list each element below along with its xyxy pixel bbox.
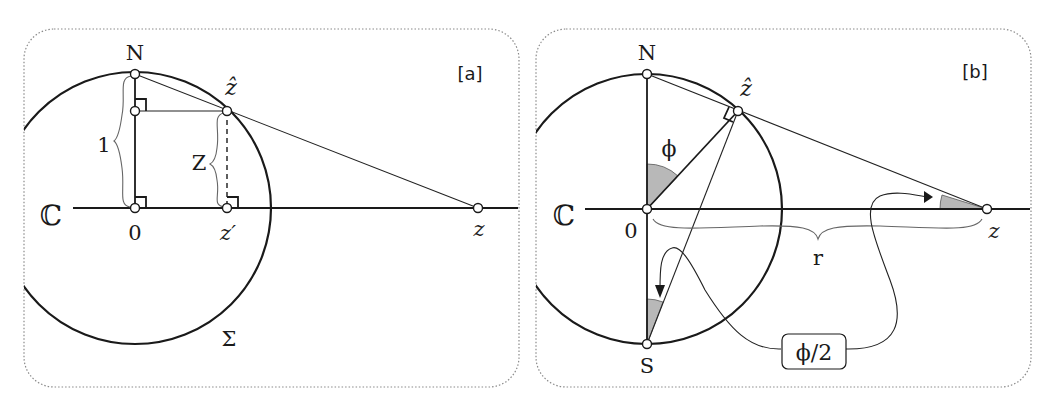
angle-phi-wedge <box>647 164 678 209</box>
point-z <box>474 204 483 213</box>
label-N: N <box>126 41 144 65</box>
point-z-hat-b <box>734 107 743 116</box>
label-complex-plane-b: ℂ <box>553 199 575 232</box>
point-N-b <box>643 70 652 79</box>
projection-line-b <box>647 74 987 209</box>
point-z-prime <box>223 204 232 213</box>
panel-b-tag: [b] <box>962 61 987 82</box>
brace-radius <box>653 219 982 239</box>
projection-line <box>135 74 478 208</box>
label-origin-b: 0 <box>624 219 637 243</box>
panel-b: ϕ/2 N ẑ ℂ 0 z r ϕ S [b] <box>512 29 1031 387</box>
label-complex-plane: ℂ <box>40 199 62 232</box>
right-angle-mark-zhat <box>724 107 733 122</box>
stereographic-projection-diagram: N ẑ ℂ 0 z′ z Σ 1 Z [a] <box>0 0 1050 408</box>
point-S <box>643 340 652 349</box>
point-origin <box>131 204 140 213</box>
arrow-curve-to-z <box>846 193 928 349</box>
label-half-angle: ϕ/2 <box>796 340 832 365</box>
brace-height-Z <box>210 113 224 207</box>
arrowhead-S <box>655 285 665 298</box>
point-axis-Z <box>131 107 140 116</box>
label-z: z <box>472 217 485 241</box>
point-z-b <box>983 205 992 214</box>
point-origin-b <box>643 205 652 214</box>
point-N <box>131 70 140 79</box>
label-z-hat: ẑ <box>224 75 237 100</box>
label-angle-phi: ϕ <box>662 136 677 161</box>
brace-unit-height <box>114 76 131 207</box>
label-origin: 0 <box>128 221 141 245</box>
label-S: S <box>640 354 654 378</box>
label-z-b: z <box>987 219 1000 243</box>
label-radius: r <box>813 246 824 270</box>
label-sphere: Σ <box>222 327 237 351</box>
point-z-hat <box>223 107 232 116</box>
angle-half-phi-wedge-z <box>940 195 987 209</box>
label-unit-height: 1 <box>97 133 110 157</box>
label-N-b: N <box>638 41 656 65</box>
panel-a-tag: [a] <box>457 63 482 84</box>
label-z-hat-b: ẑ <box>739 76 752 101</box>
panel-a: N ẑ ℂ 0 z′ z Σ 1 Z [a] <box>0 29 519 387</box>
label-height-Z: Z <box>192 151 207 175</box>
arrowhead-z <box>924 191 933 203</box>
label-z-prime: z′ <box>219 221 236 245</box>
